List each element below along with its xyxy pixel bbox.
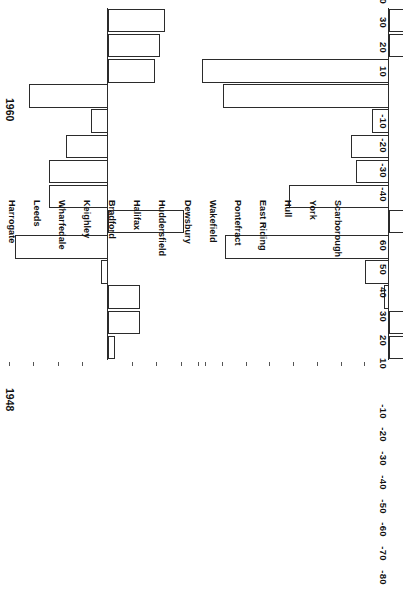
bar-hull bbox=[108, 285, 140, 309]
bar-keighley bbox=[223, 84, 389, 108]
bar-york bbox=[108, 311, 140, 335]
bar-scarborough bbox=[108, 336, 115, 360]
axis-tick bbox=[198, 362, 199, 366]
axis-tick bbox=[33, 362, 34, 366]
axis-tick bbox=[58, 362, 59, 366]
bar-harrogate bbox=[108, 9, 165, 33]
axis-tick bbox=[132, 362, 133, 366]
bar-wakefield bbox=[108, 210, 184, 234]
panel-1960-plot bbox=[0, 8, 203, 360]
axis-tick bbox=[270, 362, 271, 366]
category-label-halifax: Halifax bbox=[132, 200, 142, 230]
bar-wharfedale bbox=[202, 59, 389, 83]
category-label-pontefract: Pontefract bbox=[233, 200, 243, 246]
axis-tick bbox=[205, 362, 206, 366]
bar-scarborough bbox=[389, 336, 403, 360]
bar-east-riding bbox=[101, 260, 108, 284]
bar-wakefield bbox=[389, 210, 403, 234]
figure-canvas: 1960 1948 HarrogateLeedsWharfedaleKeighl… bbox=[0, 0, 403, 602]
category-label-dewsbury: Dewsbury bbox=[183, 200, 193, 244]
bar-bradford bbox=[91, 109, 108, 133]
category-label-leeds: Leeds bbox=[32, 200, 42, 227]
bar-york bbox=[389, 311, 403, 335]
axis-tick bbox=[341, 362, 342, 366]
axis-tick bbox=[246, 362, 247, 366]
category-label-wharfedale: Wharfedale bbox=[57, 200, 67, 250]
bar-halifax bbox=[66, 135, 108, 159]
category-label-east-riding: East Riding bbox=[258, 200, 268, 251]
axis-tick bbox=[156, 362, 157, 366]
axis-tick-label-1948: 10 bbox=[378, 349, 389, 379]
category-label-wakefield: Wakefield bbox=[208, 200, 218, 243]
panel-1960 bbox=[0, 8, 203, 360]
category-label-york: York bbox=[308, 200, 318, 220]
axis-tick-label-1960: 10 bbox=[378, 57, 389, 87]
bar-pontefract bbox=[225, 235, 389, 259]
axis-tick bbox=[317, 362, 318, 366]
axis-tick bbox=[222, 362, 223, 366]
panel-title-1960: 1960 bbox=[4, 98, 16, 121]
category-label-bradford: Bradford bbox=[107, 200, 117, 239]
category-label-scarborough: Scarborough bbox=[333, 200, 343, 257]
axis-tick-label-1948: -80 bbox=[378, 562, 389, 592]
axis-tick bbox=[364, 362, 365, 366]
axis-tick bbox=[293, 362, 294, 366]
bar-harrogate bbox=[389, 9, 403, 33]
axis-tick-label-1960: -40 bbox=[378, 180, 389, 210]
bar-leeds bbox=[108, 34, 160, 58]
category-label-harrogate: Harrogate bbox=[7, 200, 17, 243]
bar-leeds bbox=[389, 34, 403, 58]
axis-tick bbox=[82, 362, 83, 366]
bar-huddersfield bbox=[49, 160, 108, 184]
bar-keighley bbox=[29, 84, 108, 108]
category-label-keighley: Keighley bbox=[82, 200, 92, 238]
category-label-huddersfield: Huddersfield bbox=[157, 200, 167, 256]
category-label-hull: Hull bbox=[283, 200, 293, 217]
bar-wharfedale bbox=[108, 59, 155, 83]
panel-title-1948: 1948 bbox=[4, 388, 16, 411]
axis-tick bbox=[181, 362, 182, 366]
axis-tick bbox=[9, 362, 10, 366]
